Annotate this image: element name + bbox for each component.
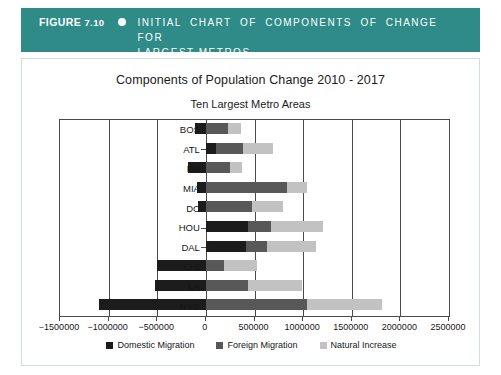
bar-row: HOU (60, 218, 449, 238)
bar-segment-natural-increase (248, 280, 302, 291)
chart-legend: Domestic MigrationForeign MigrationNatur… (22, 340, 481, 350)
x-tick (108, 316, 109, 321)
x-tick-label: 2000000 (382, 322, 417, 332)
x-tick-label: −500000 (139, 322, 174, 332)
dot-icon (118, 18, 126, 26)
bar-segment-natural-increase (228, 123, 241, 134)
x-tick-label: 0 (202, 322, 207, 332)
x-tick (448, 316, 449, 321)
bar-segment-domestic-migration (206, 221, 248, 232)
bar-segment-foreign-migration (206, 280, 248, 291)
figure-label-text: FIGURE (39, 16, 81, 28)
legend-item[interactable]: Natural Increase (320, 340, 397, 350)
bar-row: BOS (60, 120, 449, 140)
x-tick (205, 316, 206, 321)
bar-segment-natural-increase (252, 201, 283, 212)
bar-segment-domestic-migration (206, 241, 246, 252)
figure-caption-line-1: INITIAL CHART OF COMPONENTS OF CHANGE FO… (138, 15, 438, 45)
x-tick (59, 316, 60, 321)
legend-label: Domestic Migration (117, 340, 194, 350)
bar-segment-foreign-migration (246, 241, 267, 252)
bar-segment-domestic-migration (206, 143, 216, 154)
x-tick (302, 316, 303, 321)
x-tick-label: 500000 (238, 322, 268, 332)
legend-item[interactable]: Foreign Migration (216, 340, 297, 350)
category-label-mia: MIA (140, 182, 200, 195)
x-tick-label: 2500000 (430, 322, 465, 332)
bar-segment-foreign-migration (206, 123, 228, 134)
bar-segment-foreign-migration (206, 260, 224, 271)
category-label-chi: CHI (140, 260, 200, 273)
legend-swatch-icon (320, 342, 327, 349)
bar-row: PH (60, 159, 449, 179)
bar-segment-foreign-migration (206, 201, 252, 212)
x-tick (156, 316, 157, 321)
category-label-atl: ATL (140, 143, 200, 156)
bar-segment-foreign-migration (216, 143, 243, 154)
x-tick (399, 316, 400, 321)
category-label-dal: DAL (140, 241, 200, 254)
category-label-nyc: NYC (140, 300, 200, 313)
bar-row: LA (60, 277, 449, 297)
figure-label: FIGURE 7.10 (39, 15, 105, 28)
bar-segment-natural-increase (307, 299, 382, 310)
category-label-ph: PH (140, 162, 200, 175)
bar-segment-foreign-migration (206, 162, 230, 173)
plot-wrapper: BOSATLPHMIADCHOUDALCHILANYC −1500000−100… (22, 59, 481, 367)
bar-segment-foreign-migration (206, 299, 307, 310)
category-label-bos: BOS (140, 123, 200, 136)
legend-item[interactable]: Domestic Migration (106, 340, 194, 350)
x-tick-label: −1000000 (87, 322, 127, 332)
figure-number: 7.10 (84, 17, 104, 28)
legend-swatch-icon (216, 342, 223, 349)
bar-row: DAL (60, 238, 449, 258)
x-tick-label: 1500000 (333, 322, 368, 332)
bar-segment-natural-increase (224, 260, 257, 271)
bar-segment-natural-increase (271, 221, 323, 232)
legend-swatch-icon (106, 342, 113, 349)
bar-row: CHI (60, 257, 449, 277)
bar-row: ATL (60, 140, 449, 160)
bar-segment-natural-increase (287, 182, 307, 193)
bar-row: DC (60, 198, 449, 218)
figure-caption-banner: FIGURE 7.10 INITIAL CHART OF COMPONENTS … (21, 8, 480, 52)
category-label-hou: HOU (140, 221, 200, 234)
category-label-la: LA (140, 280, 200, 293)
x-tick-label: 1000000 (285, 322, 320, 332)
x-tick-label: −1500000 (39, 322, 79, 332)
chart-card: Components of Population Change 2010 - 2… (21, 58, 480, 366)
figure-caption-text: INITIAL CHART OF COMPONENTS OF CHANGE FO… (138, 15, 438, 60)
legend-label: Foreign Migration (227, 340, 297, 350)
bar-segment-foreign-migration (248, 221, 271, 232)
category-label-dc: DC (140, 202, 200, 215)
bar-segment-natural-increase (230, 162, 242, 173)
plot-area: BOSATLPHMIADCHOUDALCHILANYC (59, 119, 450, 317)
legend-label: Natural Increase (331, 340, 397, 350)
x-tick (254, 316, 255, 321)
bar-row: MIA (60, 179, 449, 199)
x-tick (351, 316, 352, 321)
bar-segment-natural-increase (243, 143, 273, 154)
bar-segment-foreign-migration (206, 182, 287, 193)
bar-segment-natural-increase (267, 241, 316, 252)
bar-row: NYC (60, 296, 449, 316)
